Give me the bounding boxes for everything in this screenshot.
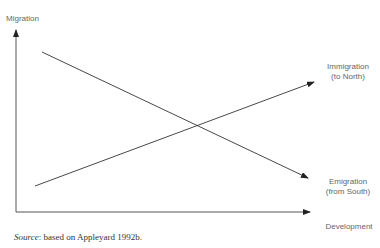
diagram-canvas xyxy=(0,0,380,248)
immigration-label-line2: (to North) xyxy=(320,72,376,82)
y-axis-label: Migration xyxy=(6,14,39,24)
emigration-line xyxy=(42,52,308,178)
source-text: : based on Appleyard 1992b. xyxy=(39,232,142,242)
x-axis-label: Development xyxy=(320,222,378,232)
immigration-line xyxy=(35,82,314,186)
emigration-label-line2: (from South) xyxy=(320,187,376,197)
source-note: Source: based on Appleyard 1992b. xyxy=(14,232,142,242)
source-prefix: Source xyxy=(14,232,39,242)
immigration-label: Immigration (to North) xyxy=(320,62,376,82)
immigration-label-line1: Immigration xyxy=(320,62,376,72)
emigration-label-line1: Emigration xyxy=(320,177,376,187)
emigration-label: Emigration (from South) xyxy=(320,177,376,197)
